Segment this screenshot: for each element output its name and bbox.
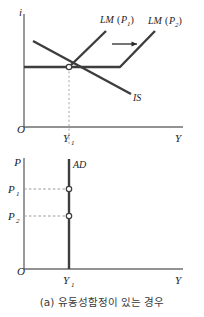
bottom-x-tick-y1: Y 1 xyxy=(63,274,75,289)
lm-p1-paren-close: ) xyxy=(131,14,134,26)
bottom-x-tick-subscript: 1 xyxy=(71,281,75,289)
lm-p2-label-text: LM xyxy=(147,15,163,26)
lm-p2-paren-close: ) xyxy=(179,15,182,27)
equilibrium-marker xyxy=(66,64,71,69)
p2-tick-label: P xyxy=(7,210,15,222)
top-x-axis-label: Y xyxy=(175,132,183,144)
ad-curve-label: AD xyxy=(72,159,87,170)
bottom-x-tick-label: Y xyxy=(63,274,71,286)
figure-caption: (a) 유동성함정이 있는 경우 xyxy=(0,294,204,309)
lm-p2-label: LM ( P 2 ) xyxy=(147,15,182,29)
lm-p1-label-text: LM xyxy=(99,14,115,25)
lm-p2-curve xyxy=(69,31,155,67)
lm-p1-curve xyxy=(24,31,106,67)
p1-tick-label: P xyxy=(7,183,15,195)
is-curve-label: IS xyxy=(132,92,141,103)
p2-point-marker xyxy=(66,213,71,218)
y-tick-p2: P 2 xyxy=(7,210,20,225)
bottom-y-axis-label: P xyxy=(13,156,21,168)
top-y-axis-label: i xyxy=(19,6,22,18)
rightward-shift-arrow xyxy=(112,42,137,47)
ad-chart: P Y O P 1 P 2 Y 1 AD xyxy=(0,148,204,293)
bottom-x-axis-label: Y xyxy=(175,274,183,286)
y-tick-p1: P 1 xyxy=(7,183,20,198)
p1-point-marker xyxy=(66,186,71,191)
p1-tick-subscript: 1 xyxy=(16,190,20,198)
lm-p1-label: LM ( P 1 ) xyxy=(99,14,134,28)
top-origin-label: O xyxy=(17,123,25,135)
p2-tick-subscript: 2 xyxy=(16,217,20,225)
is-lm-chart: i Y O Y 1 LM ( P 1 ) LM ( P 2 ) IS xyxy=(0,0,204,150)
top-x-tick-label: Y xyxy=(63,132,71,144)
top-x-tick-y1: Y 1 xyxy=(63,132,75,147)
figure-container: i Y O Y 1 LM ( P 1 ) LM ( P 2 ) IS xyxy=(0,0,204,317)
top-x-tick-subscript: 1 xyxy=(71,139,75,147)
bottom-origin-label: O xyxy=(17,265,25,277)
